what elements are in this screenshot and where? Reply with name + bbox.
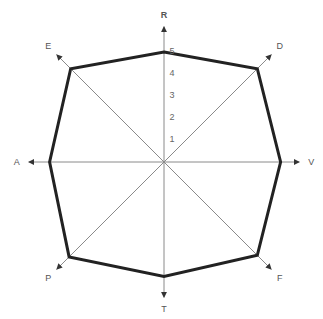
axis-label-f: F <box>277 273 283 283</box>
radial-tick-label: 1 <box>169 134 174 144</box>
axis-e <box>57 55 164 162</box>
radial-tick-label: 4 <box>169 68 174 78</box>
radial-tick-label: 3 <box>169 90 174 100</box>
axis-d <box>164 55 271 162</box>
axis-label-a: A <box>14 157 20 167</box>
axis-p <box>57 162 164 269</box>
radial-tick-label: 5 <box>169 46 174 56</box>
axis-label-t: T <box>161 304 167 314</box>
radar-chart: 12345 RDVFTPAE <box>0 0 323 319</box>
radial-ticks: 12345 <box>169 46 174 144</box>
axis-f <box>164 162 271 269</box>
radial-tick-label: 2 <box>169 112 174 122</box>
axis-label-v: V <box>308 157 314 167</box>
axis-label-r: R <box>161 10 168 20</box>
axis-label-d: D <box>277 41 284 51</box>
axis-label-e: E <box>45 41 51 51</box>
data-polygon <box>50 52 281 276</box>
axis-label-p: P <box>45 273 51 283</box>
